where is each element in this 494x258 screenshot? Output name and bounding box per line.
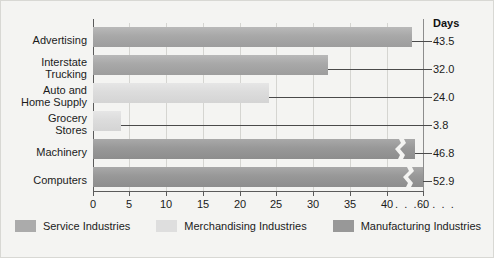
bar-row xyxy=(93,135,423,163)
leader-line xyxy=(412,41,432,42)
legend-swatch-icon xyxy=(156,220,177,232)
xtick-60 xyxy=(423,191,424,196)
xtick-25 xyxy=(276,191,277,196)
xtick-label-30: 30 xyxy=(307,198,319,210)
xtick-0 xyxy=(93,191,94,196)
legend-item-service-industries[interactable]: Service Industries xyxy=(15,220,130,232)
value-column-header: Days xyxy=(433,17,459,29)
axis-break-zigzag-icon xyxy=(399,165,415,189)
leader-line xyxy=(121,125,432,126)
bar-row xyxy=(93,107,423,135)
category-label-advertising: Advertising xyxy=(1,34,87,46)
value-label-auto-and-home-supply: 24.0 xyxy=(433,91,487,103)
x-axis-line xyxy=(93,191,424,192)
xtick-label-5: 5 xyxy=(126,198,132,210)
plot-area xyxy=(93,23,423,191)
xtick-label-15: 15 xyxy=(197,198,209,210)
legend-label: Manufacturing Industries xyxy=(361,220,481,232)
xtick-label-10: 10 xyxy=(160,198,172,210)
bar-row xyxy=(93,23,423,51)
category-label-interstate-trucking: Interstate Trucking xyxy=(1,56,87,80)
legend-swatch-icon xyxy=(15,220,36,232)
xtick-5 xyxy=(129,191,130,196)
xtick-label-0: 0 xyxy=(90,198,96,210)
xtick-label-35: 35 xyxy=(344,198,356,210)
value-label-grocery-stores: 3.8 xyxy=(433,119,487,131)
category-label-computers: Computers xyxy=(1,174,87,186)
value-axis-line xyxy=(423,19,424,195)
leader-line xyxy=(423,181,432,182)
bar-interstate-trucking[interactable] xyxy=(93,55,328,75)
category-label-auto-and-home-supply: Auto and Home Supply xyxy=(1,84,87,108)
xtick-15 xyxy=(203,191,204,196)
leader-line xyxy=(415,153,432,154)
bar-computers[interactable] xyxy=(93,167,423,187)
xtick-label-25: 25 xyxy=(270,198,282,210)
xtick-20 xyxy=(240,191,241,196)
xtick-label-40: 40 xyxy=(381,198,393,210)
bar-machinery[interactable] xyxy=(93,139,415,159)
leader-line xyxy=(269,97,432,98)
legend-swatch-icon xyxy=(333,220,354,232)
xtick-35 xyxy=(350,191,351,196)
bar-row xyxy=(93,163,423,191)
legend-item-merchandising-industries[interactable]: Merchandising Industries xyxy=(156,220,306,232)
bar-row xyxy=(93,51,423,79)
xtick-30 xyxy=(313,191,314,196)
category-label-grocery-stores: Grocery Stores xyxy=(1,112,87,136)
category-label-machinery: Machinery xyxy=(1,146,87,158)
legend-label: Service Industries xyxy=(43,220,130,232)
bar-chart-figure: Days xyxy=(0,0,494,258)
bar-auto-and-home-supply[interactable] xyxy=(93,83,269,103)
value-label-advertising: 43.5 xyxy=(433,35,487,47)
axis-break-zigzag-icon xyxy=(391,137,407,161)
legend-item-manufacturing-industries[interactable]: Manufacturing Industries xyxy=(333,220,481,232)
xtick-label-20: 20 xyxy=(234,198,246,210)
bar-row xyxy=(93,79,423,107)
value-label-interstate-trucking: 32.0 xyxy=(433,63,487,75)
legend-label: Merchandising Industries xyxy=(184,220,306,232)
xtick-10 xyxy=(166,191,167,196)
xtick-label-60: 60 xyxy=(417,198,429,210)
legend: Service Industries Merchandising Industr… xyxy=(1,220,494,232)
leader-line xyxy=(328,69,432,70)
value-label-computers: 52.9 xyxy=(433,175,487,187)
bar-grocery-stores[interactable] xyxy=(93,111,121,131)
bar-advertising[interactable] xyxy=(93,27,412,47)
value-label-machinery: 46.8 xyxy=(433,147,487,159)
xtick-40 xyxy=(387,191,388,196)
